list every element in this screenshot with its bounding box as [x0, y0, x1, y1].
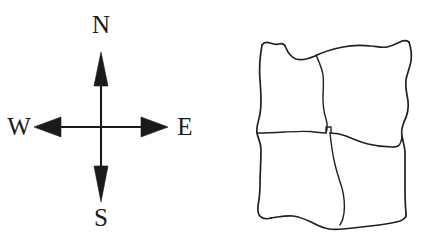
sketch-outline-top [262, 41, 409, 60]
sketch-outline-bottom [271, 213, 406, 229]
compass-label-south: S [81, 205, 121, 230]
compass-rose-panel: N W E S [0, 0, 223, 247]
hand-drawn-quadrilateral-panel [223, 0, 446, 247]
compass-north-arrowhead [94, 52, 108, 86]
sketch-divider-vertical-lower [330, 133, 344, 225]
sketch-outline-right [402, 42, 412, 213]
hand-drawn-quadrilateral-graphic [223, 0, 446, 247]
compass-east-arrowhead [141, 117, 168, 137]
compass-west-arrowhead [34, 117, 61, 137]
compass-south-arrowhead [94, 166, 108, 202]
sketch-divider-horizontal-right [330, 133, 402, 147]
figure-root: N W E S [0, 0, 446, 247]
compass-label-north: N [81, 12, 121, 37]
sketch-divider-vertical-upper [316, 55, 327, 133]
sketch-outline-left [257, 45, 271, 219]
sketch-divider-horizontal-left [257, 131, 326, 133]
compass-label-east: E [168, 114, 202, 139]
compass-label-west: W [2, 114, 36, 139]
